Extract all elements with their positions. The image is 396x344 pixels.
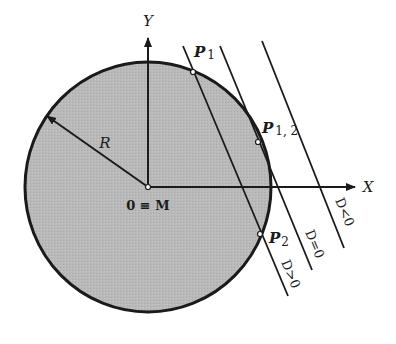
point-p12	[256, 140, 261, 145]
point-p2	[258, 232, 263, 237]
p2-label: P2	[268, 229, 289, 249]
x-axis-label: X	[362, 178, 375, 196]
secant-line-label: D>0	[278, 257, 303, 290]
p12-label: P1, 2	[261, 119, 298, 138]
center-point	[146, 185, 151, 190]
radius-label: R	[98, 134, 110, 152]
p1-label: P1	[193, 43, 215, 62]
p1-subscript: 1	[207, 48, 215, 62]
circle-line-intersection-diagram: Y X R 0 ≡ M P1 P1, 2 P2 D>0 D=0 D<0	[0, 0, 396, 344]
center-label: 0 ≡ M	[126, 198, 169, 213]
point-p1	[191, 70, 196, 75]
external-line	[262, 41, 344, 248]
p2-subscript: 2	[281, 235, 289, 249]
p12-subscript: 1, 2	[275, 124, 298, 138]
y-axis-label: Y	[143, 12, 155, 30]
external-line-label: D<0	[332, 195, 357, 228]
